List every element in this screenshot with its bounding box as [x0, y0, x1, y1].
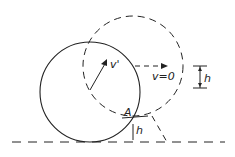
label-height-right: h	[204, 72, 211, 85]
solid-circle	[40, 42, 140, 142]
label-height-bottom: h	[136, 124, 143, 137]
label-velocity: v'	[110, 58, 120, 71]
height-arrow-up	[198, 67, 202, 71]
dashed-arrowhead	[161, 63, 168, 69]
height-arrow-down	[198, 83, 202, 87]
label-velocity-zero: v=0	[152, 70, 175, 83]
velocity-vector	[90, 62, 106, 90]
velocity-arrowhead	[101, 59, 107, 66]
tangent-dashed	[152, 116, 167, 142]
diagram-canvas: v' v=0 A h h	[0, 0, 235, 157]
label-point-a: A	[123, 106, 132, 119]
